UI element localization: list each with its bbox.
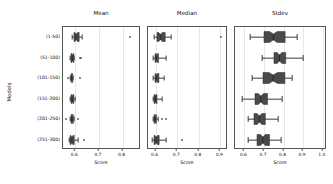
y-axis-label-text: Models xyxy=(6,83,12,102)
whisker-cap-5-0 xyxy=(68,137,69,142)
whisker-cap-5-1 xyxy=(166,137,167,142)
whisker-cap-0-0 xyxy=(153,35,154,40)
outlier-1-1 xyxy=(80,57,82,59)
whisker-cap-5-1 xyxy=(281,137,282,143)
box-0 xyxy=(74,33,79,42)
x-tick-label-2: 0.8 xyxy=(279,152,286,157)
gridline-0 xyxy=(244,27,245,148)
x-tick-label-0: 0.6 xyxy=(151,152,158,157)
row-tick-1 xyxy=(147,58,148,59)
outlier-4-0 xyxy=(65,118,67,120)
whisker-cap-3-1 xyxy=(282,96,283,102)
box-0 xyxy=(157,33,165,42)
outlier-0-0 xyxy=(220,36,222,38)
outlier-5-0 xyxy=(83,139,85,141)
whisker-cap-5-1 xyxy=(78,137,79,142)
row-tick-0 xyxy=(62,37,63,38)
box-5 xyxy=(257,134,270,145)
row-tick-5 xyxy=(62,140,63,141)
whisker-cap-5-0 xyxy=(152,137,153,142)
x-axis-mean: 0.60.70.8Score xyxy=(62,149,140,183)
box-4 xyxy=(154,115,156,124)
outlier-0-0 xyxy=(129,36,131,38)
whisker-cap-1-0 xyxy=(153,55,154,60)
outlier-4-0 xyxy=(161,118,163,120)
plot-area-median xyxy=(147,26,227,149)
whisker-cap-3-0 xyxy=(152,96,153,101)
x-tick-label-1: 0.7 xyxy=(94,152,101,157)
whisker-cap-4-0 xyxy=(248,116,249,122)
outlier-2-0 xyxy=(67,77,69,79)
panel-stdev: Stdev0.60.70.80.91.0Score xyxy=(234,0,326,184)
row-tick-4 xyxy=(147,119,148,120)
box-5 xyxy=(70,135,74,144)
row-tick-5 xyxy=(147,140,148,141)
whisker-cap-2-1 xyxy=(163,76,164,81)
plot-area-stdev xyxy=(234,26,326,149)
x-axis-label-stdev: Score xyxy=(234,160,326,165)
box-1 xyxy=(71,53,74,62)
gridline-3 xyxy=(220,27,221,148)
row-tick-4 xyxy=(234,119,235,120)
y-tick-label-1: (51-100) xyxy=(40,54,60,59)
whisker-cap-0-0 xyxy=(72,35,73,40)
x-tick-label-0: 0.6 xyxy=(240,152,247,157)
gridline-0 xyxy=(75,27,76,148)
gridline-4 xyxy=(323,27,324,148)
whisker-cap-3-1 xyxy=(75,96,76,101)
row-tick-3 xyxy=(62,99,63,100)
row-tick-4 xyxy=(62,119,63,120)
row-tick-1 xyxy=(62,58,63,59)
outlier-4-1 xyxy=(165,118,167,120)
whisker-cap-4-1 xyxy=(278,116,279,122)
row-tick-2 xyxy=(147,78,148,79)
whisker-cap-0-1 xyxy=(82,35,83,40)
row-tick-1 xyxy=(234,58,235,59)
box-0 xyxy=(264,32,285,43)
whisker-cap-2-0 xyxy=(153,76,154,81)
whisker-cap-2-0 xyxy=(252,75,253,81)
whisker-cap-1-1 xyxy=(166,55,167,60)
plot-area-mean xyxy=(62,26,140,149)
row-tick-2 xyxy=(234,78,235,79)
panel-mean: Mean0.60.70.8Score xyxy=(62,0,140,184)
row-tick-3 xyxy=(234,99,235,100)
y-axis-tick-labels: (1-50)(51-100)(101-150)(151-200)(201-250… xyxy=(14,0,62,184)
panel-title-mean: Mean xyxy=(62,10,140,16)
whisker-cap-4-1 xyxy=(74,117,75,122)
gridline-1 xyxy=(264,27,265,148)
x-tick-label-0: 0.6 xyxy=(71,152,78,157)
whisker-cap-5-0 xyxy=(247,137,248,143)
box-4 xyxy=(71,115,73,124)
gridline-2 xyxy=(199,27,200,148)
x-tick-label-3: 0.9 xyxy=(216,152,223,157)
box-4 xyxy=(254,114,265,125)
x-axis-label-mean: Score xyxy=(62,160,140,165)
x-tick-label-1: 0.7 xyxy=(173,152,180,157)
box-1 xyxy=(155,53,158,62)
outlier-4-1 xyxy=(77,118,79,120)
row-tick-3 xyxy=(147,99,148,100)
y-tick-label-3: (151-200) xyxy=(37,95,60,100)
boxplot-figure: Models (1-50)(51-100)(101-150)(151-200)(… xyxy=(0,0,333,184)
gridline-3 xyxy=(303,27,304,148)
box-1 xyxy=(274,52,286,63)
y-tick-label-4: (201-250) xyxy=(37,116,60,121)
panel-title-median: Median xyxy=(147,10,227,16)
whisker-cap-1-1 xyxy=(302,55,303,61)
x-axis-label-median: Score xyxy=(147,160,227,165)
box-3 xyxy=(154,94,157,103)
panel-median: Median0.60.70.80.9Score xyxy=(147,0,227,184)
gridline-1 xyxy=(177,27,178,148)
x-axis-median: 0.60.70.80.9Score xyxy=(147,149,227,183)
gridline-2 xyxy=(284,27,285,148)
outlier-2-1 xyxy=(79,77,81,79)
whisker-cap-0-1 xyxy=(171,35,172,40)
gridline-2 xyxy=(123,27,124,148)
x-axis-stdev: 0.60.70.80.91.0Score xyxy=(234,149,326,183)
box-5 xyxy=(154,135,159,144)
box-2 xyxy=(71,74,73,83)
x-tick-label-3: 0.9 xyxy=(299,152,306,157)
gridline-1 xyxy=(99,27,100,148)
whisker-cap-0-0 xyxy=(250,34,251,40)
